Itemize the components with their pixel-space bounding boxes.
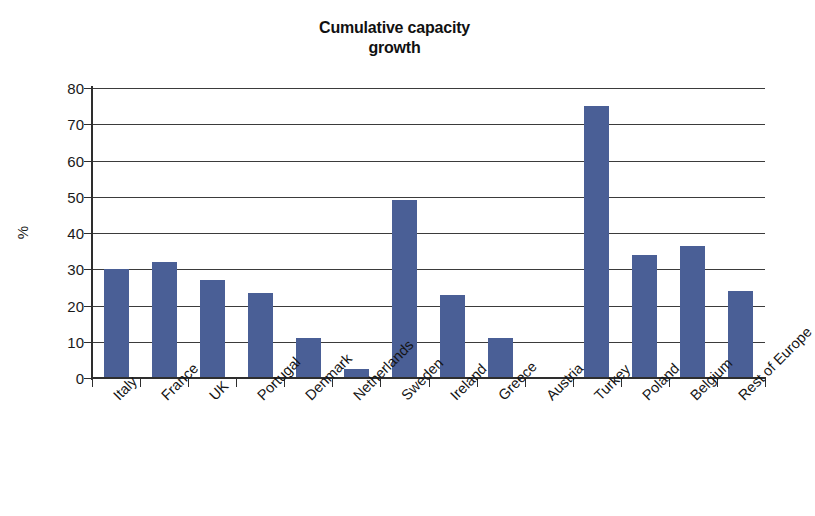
bar: [632, 255, 657, 378]
gridline: [92, 88, 765, 89]
bar: [200, 280, 225, 378]
y-axis-tick-label: 60: [44, 152, 84, 169]
chart-title: Cumulative capacity growth: [0, 18, 789, 58]
gridline: [92, 197, 765, 198]
bar: [248, 293, 273, 378]
bar: [104, 269, 129, 378]
x-axis-tick-label: UK: [206, 378, 232, 404]
y-axis-tick-label: 20: [44, 297, 84, 314]
gridline: [92, 161, 765, 162]
y-axis-tick-label: 10: [44, 333, 84, 350]
bar: [296, 338, 321, 378]
y-axis-label: %: [14, 226, 31, 239]
plot-area: [92, 88, 765, 378]
y-axis-tick-label: 30: [44, 261, 84, 278]
gridline: [92, 233, 765, 234]
gridline: [92, 269, 765, 270]
y-axis-tick-label: 0: [44, 370, 84, 387]
bar: [584, 106, 609, 378]
y-axis-tick-label: 40: [44, 225, 84, 242]
gridline: [92, 342, 765, 343]
x-axis-tick-mark: [92, 378, 93, 387]
y-axis-line: [91, 86, 93, 380]
y-axis-tick-label: 80: [44, 80, 84, 97]
gridline: [92, 306, 765, 307]
bar: [680, 246, 705, 378]
chart-title-line-1: Cumulative capacity: [0, 18, 789, 38]
gridline: [92, 124, 765, 125]
y-axis-tick-label: 50: [44, 188, 84, 205]
bar: [488, 338, 513, 378]
chart-title-line-2: growth: [0, 38, 789, 58]
bar: [152, 262, 177, 378]
y-axis-tick-labels: 01020304050607080: [38, 0, 84, 516]
x-axis-tick-mark: [236, 378, 237, 387]
x-axis-tick-mark: [140, 378, 141, 387]
y-axis-tick-label: 70: [44, 116, 84, 133]
